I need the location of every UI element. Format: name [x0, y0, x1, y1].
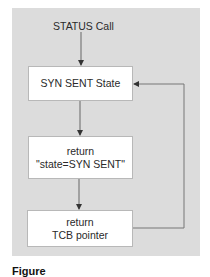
start-label: STATUS Call	[53, 20, 114, 32]
node-return-state: return "state=SYN SENT"	[28, 136, 133, 179]
node-return-tcb: return TCB pointer	[27, 210, 133, 247]
node-label-line1: return	[67, 145, 94, 158]
figure-caption: Figure	[12, 265, 46, 277]
node-syn-sent-state: SYN SENT State	[28, 66, 133, 101]
node-label: SYN SENT State	[41, 77, 121, 90]
loop-back-line	[133, 84, 184, 228]
node-label-line1: return	[66, 216, 93, 229]
node-label-line2: TCB pointer	[52, 229, 108, 242]
node-label-line2: "state=SYN SENT"	[36, 158, 125, 171]
